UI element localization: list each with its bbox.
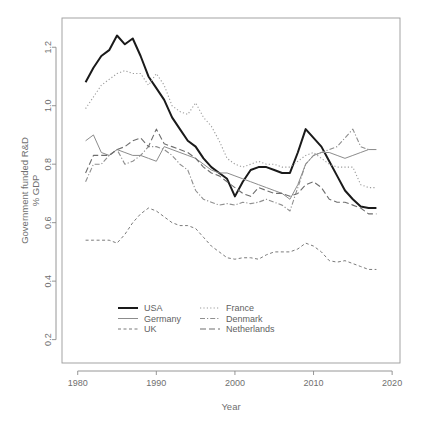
legend-label-uk: UK <box>144 324 157 334</box>
legend-label-usa: USA <box>144 303 163 313</box>
x-tick-label-2000: 2000 <box>225 378 245 388</box>
line-chart-svg: 0.20.40.60.81.01.2 19801990200020102020 … <box>0 0 428 423</box>
legend-label-netherlands: Netherlands <box>226 324 275 334</box>
legend-label-germany: Germany <box>144 314 182 324</box>
figure-background <box>0 0 428 423</box>
legend-label-france: France <box>226 303 254 313</box>
y-tick-label-0.6: 0.6 <box>43 216 53 229</box>
y-tick-label-0.8: 0.8 <box>43 158 53 171</box>
y-tick-label-1.2: 1.2 <box>43 41 53 54</box>
legend-label-denmark: Denmark <box>226 314 263 324</box>
y-tick-label-0.2: 0.2 <box>43 333 53 346</box>
x-axis-title: Year <box>221 401 240 412</box>
y-tick-label-0.4: 0.4 <box>43 275 53 288</box>
y-axis-title-line1: Government funded R&D <box>19 137 30 244</box>
chart-figure: 0.20.40.60.81.01.2 19801990200020102020 … <box>0 0 428 423</box>
x-tick-label-1980: 1980 <box>68 378 88 388</box>
x-tick-label-2020: 2020 <box>382 378 402 388</box>
x-tick-label-1990: 1990 <box>146 378 166 388</box>
y-axis-title-line2: % GDP <box>30 175 41 207</box>
y-tick-label-1.0: 1.0 <box>43 99 53 112</box>
x-tick-label-2010: 2010 <box>304 378 324 388</box>
